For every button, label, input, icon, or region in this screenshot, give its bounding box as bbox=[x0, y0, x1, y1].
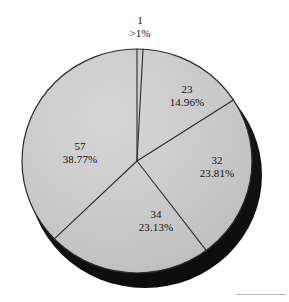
slice-label-percent: 23.81% bbox=[188, 167, 246, 180]
slice-label-name: 34 bbox=[127, 208, 185, 221]
slice-label-percent: 23.13% bbox=[127, 221, 185, 234]
pie-chart-canvas bbox=[0, 0, 289, 302]
slice-label-percent: 14.96% bbox=[160, 96, 214, 109]
slice-label-name: 32 bbox=[188, 154, 246, 167]
pie-slice-label-23: 23 14.96% bbox=[160, 83, 214, 108]
slice-label-percent: >1% bbox=[113, 27, 167, 40]
pie-chart-figure: 1 >1% 23 14.96% 32 23.81% 34 23.13% 57 3… bbox=[0, 0, 289, 302]
slice-label-name: 57 bbox=[51, 140, 109, 153]
pie-slice-label-57: 57 38.77% bbox=[51, 140, 109, 165]
slice-label-percent: 38.77% bbox=[51, 153, 109, 166]
pie-slice-label-34: 34 23.13% bbox=[127, 208, 185, 233]
slice-label-name: 1 bbox=[113, 14, 167, 27]
pie-slice-label-1: 1 >1% bbox=[113, 14, 167, 39]
scan-artifact-line bbox=[236, 294, 286, 295]
slice-label-name: 23 bbox=[160, 83, 214, 96]
pie-slice-label-32: 32 23.81% bbox=[188, 154, 246, 179]
